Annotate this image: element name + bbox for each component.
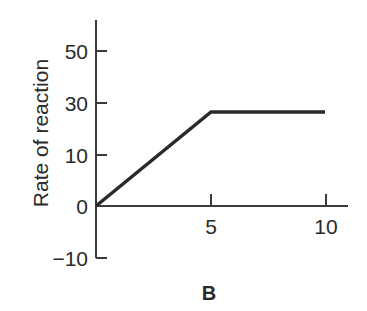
chart: 50 30 10 0 −10 5 10 Rate of reaction B	[0, 0, 367, 311]
y-tick-label-50: 50	[65, 40, 88, 63]
y-axis-title: Rate of reaction	[29, 59, 52, 207]
y-tick-label-10: 10	[65, 144, 88, 167]
y-tick-label-0: 0	[76, 195, 88, 218]
y-tick-label-30: 30	[65, 92, 88, 115]
rate-line	[96, 112, 325, 206]
panel-label: B	[202, 282, 216, 304]
x-tick-label-5: 5	[205, 215, 217, 238]
x-tick-label-10: 10	[314, 215, 337, 238]
x-ticks	[211, 194, 326, 206]
y-ticks	[96, 51, 107, 258]
y-tick-label-minus10: −10	[52, 247, 88, 270]
